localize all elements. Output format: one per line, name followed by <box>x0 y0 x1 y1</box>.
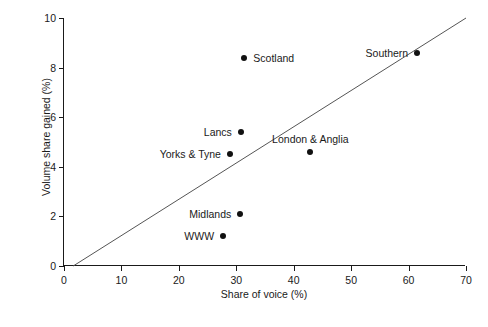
data-point-label: Southern <box>366 47 409 59</box>
x-axis-tick-label: 50 <box>331 274 371 286</box>
data-point <box>414 50 420 56</box>
x-axis-tick <box>351 266 352 271</box>
x-axis-tick-label: 70 <box>446 274 486 286</box>
x-axis-tick <box>179 266 180 271</box>
y-axis-title: Volume share gained (%) <box>40 13 52 261</box>
x-axis-tick-label: 40 <box>274 274 314 286</box>
y-axis-tick <box>59 216 64 217</box>
data-point-label: London & Anglia <box>272 133 348 145</box>
data-point-label: WWW <box>184 230 214 242</box>
x-axis-tick <box>236 266 237 271</box>
x-axis-tick-label: 10 <box>101 274 141 286</box>
x-axis-tick-label: 30 <box>216 274 256 286</box>
y-axis-tick <box>59 18 64 19</box>
x-axis-tick-label: 60 <box>389 274 429 286</box>
y-axis-tick <box>59 167 64 168</box>
scatter-chart: 0102030405060700246810ScotlandSouthernLa… <box>0 0 488 327</box>
x-axis-title: Share of voice (%) <box>63 288 465 300</box>
y-axis-tick <box>59 68 64 69</box>
y-axis-tick-label: 0 <box>32 260 56 272</box>
x-axis-tick <box>121 266 122 271</box>
y-axis-tick <box>59 117 64 118</box>
x-axis-tick <box>466 266 467 271</box>
plot-area: 0102030405060700246810ScotlandSouthernLa… <box>63 18 465 266</box>
x-axis-tick-label: 0 <box>44 274 84 286</box>
x-axis-tick <box>409 266 410 271</box>
y-axis-tick <box>59 266 64 267</box>
x-axis-tick <box>294 266 295 271</box>
x-axis-tick-label: 20 <box>159 274 199 286</box>
data-point <box>238 129 244 135</box>
data-point-label: Scotland <box>253 52 294 64</box>
x-axis-tick <box>64 266 65 271</box>
data-point-label: Midlands <box>189 208 231 220</box>
data-point-label: Lancs <box>204 126 232 138</box>
data-point <box>241 55 247 61</box>
data-point-label: Yorks & Tyne <box>160 148 221 160</box>
